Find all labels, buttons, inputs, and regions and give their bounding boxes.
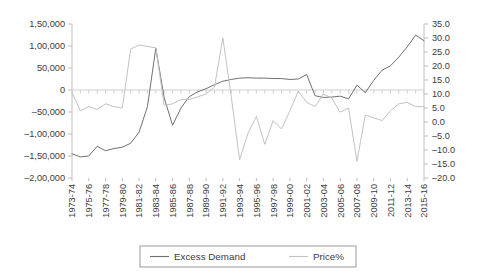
right-axis-tick-label: 10.0 (432, 89, 450, 99)
category-axis-label: 2013-14 (403, 184, 413, 218)
category-axis-label: 1973-74 (67, 184, 77, 218)
category-axis-label: 1979-80 (118, 184, 128, 218)
right-axis-tick-label: ‒20.0 (432, 173, 455, 183)
left-axis-tick-label: ‒50,000 (32, 107, 65, 117)
left-axis-tick-label: 1,50,000 (29, 19, 65, 29)
category-axis-label: 2009-10 (369, 184, 379, 218)
right-axis-tick-label: 20.0 (432, 61, 450, 71)
legend-label: Price% (313, 251, 344, 262)
category-axis-label: 1997-98 (269, 184, 279, 218)
category-axis-label: 1975-76 (84, 184, 94, 218)
left-axis-tick-label: ‒1,00,000 (24, 129, 65, 139)
right-axis-tick-label: 0.0 (432, 117, 445, 127)
right-axis-tick-label: 15.0 (432, 75, 450, 85)
category-axis-label: 1991-92 (218, 184, 228, 218)
right-axis-tick-label: ‒5.0 (432, 131, 450, 141)
category-axis-label: 2007-08 (352, 184, 362, 218)
category-axis-label: 1989-90 (201, 184, 211, 218)
category-axis-label: 1983-84 (151, 184, 161, 218)
category-axis-label: 1987-88 (185, 184, 195, 218)
right-axis-tick-label: 35.0 (432, 19, 450, 29)
category-axis-label: 2001-02 (302, 184, 312, 218)
category-axis-label: 2003-04 (319, 184, 329, 218)
chart-legend[interactable]: Excess DemandPrice% (140, 246, 356, 267)
left-axis-tick-label: 0 (60, 85, 65, 95)
left-axis-tick-label: 1,00,000 (29, 41, 65, 51)
category-axis-label: 1985-86 (168, 184, 178, 218)
legend-label: Excess Demand (174, 251, 245, 262)
right-axis-tick-label: 30.0 (432, 33, 450, 43)
left-axis-tick-label: ‒2,00,000 (24, 173, 65, 183)
category-axis-label: 1993-94 (235, 184, 245, 218)
right-axis-tick-label: ‒10.0 (432, 145, 455, 155)
category-axis-label: 1999-00 (285, 184, 295, 218)
right-axis-tick-label: 25.0 (432, 47, 450, 57)
category-axis-label: 2015-16 (419, 184, 429, 218)
category-axis-label: 1995-96 (252, 184, 262, 218)
category-axis-label: 2011-12 (386, 184, 396, 217)
category-axis-label: 1981-82 (134, 184, 144, 218)
category-axis-label: 1977-78 (101, 184, 111, 218)
excess-demand-price-line-chart: 1,50,0001,00,00050,0000‒50,000‒1,00,000‒… (0, 0, 494, 276)
right-axis-tick-label: ‒15.0 (432, 159, 455, 169)
category-axis-label: 2005-06 (336, 184, 346, 218)
left-axis-tick-label: ‒1,50,000 (24, 151, 65, 161)
chart-container: 1,50,0001,00,00050,0000‒50,000‒1,00,000‒… (0, 0, 494, 276)
left-axis-tick-label: 50,000 (37, 63, 65, 73)
right-axis-tick-label: 5.0 (432, 103, 445, 113)
